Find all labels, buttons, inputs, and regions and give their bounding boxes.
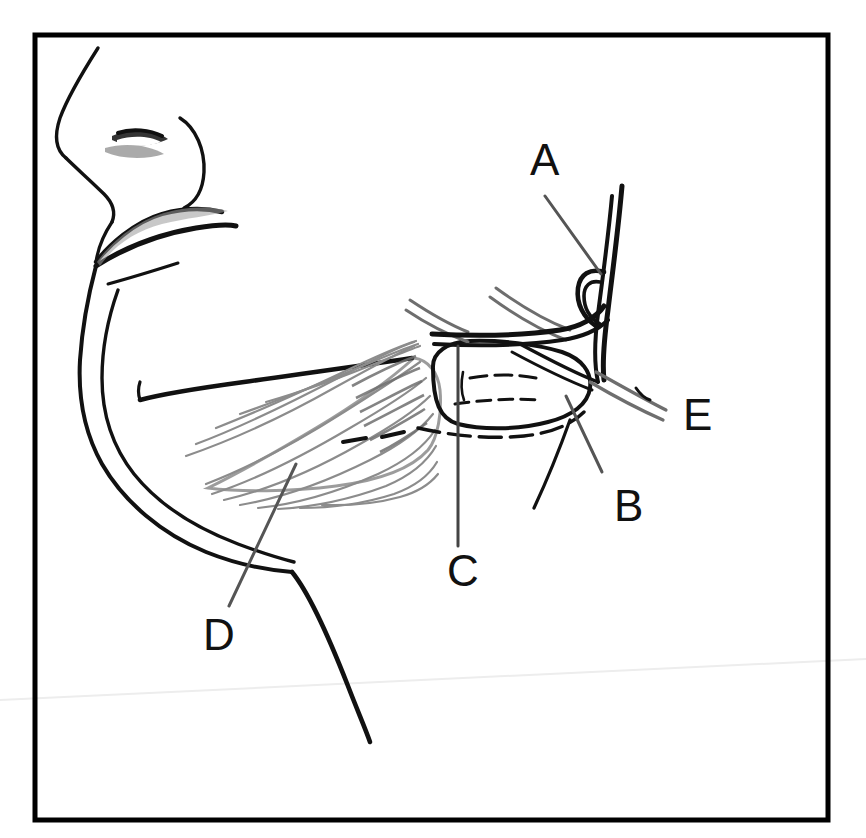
mandible-anterior-tick	[139, 382, 141, 400]
canvas-background	[0, 0, 866, 838]
label-B: B	[614, 481, 643, 530]
label-E: E	[683, 390, 712, 439]
anatomy-illustration: A B C D E	[0, 0, 866, 838]
label-C: C	[447, 546, 479, 595]
label-D: D	[203, 610, 235, 659]
label-A: A	[530, 135, 560, 184]
anatomy-figure: A B C D E	[0, 0, 866, 838]
